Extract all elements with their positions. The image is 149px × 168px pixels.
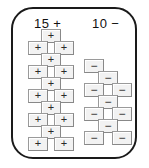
minus-icon: − bbox=[118, 84, 125, 96]
minus-icon: − bbox=[104, 120, 111, 132]
plus-icon: + bbox=[35, 114, 41, 125]
plus-icon: + bbox=[35, 66, 41, 77]
terminal-cell[interactable]: − bbox=[84, 131, 104, 145]
minus-icon: − bbox=[118, 108, 125, 120]
minus-icon: − bbox=[90, 108, 97, 120]
plus-icon: + bbox=[61, 114, 67, 125]
plus-icon: + bbox=[48, 30, 54, 41]
plus-icon: + bbox=[35, 42, 41, 53]
plus-icon: + bbox=[61, 90, 67, 101]
minus-icon: − bbox=[104, 72, 111, 84]
plus-icon: + bbox=[35, 90, 41, 101]
minus-icon: − bbox=[104, 96, 111, 108]
plus-icon: + bbox=[48, 78, 54, 89]
plus-icon: + bbox=[48, 54, 54, 65]
terminal-cell[interactable]: − bbox=[112, 131, 132, 145]
minus-icon: − bbox=[118, 132, 125, 144]
terminal-cell[interactable]: + bbox=[54, 137, 74, 151]
plus-icon: + bbox=[35, 138, 41, 149]
terminal-cell[interactable]: + bbox=[28, 137, 48, 151]
plus-icon: + bbox=[61, 42, 67, 53]
minus-icon: − bbox=[90, 132, 97, 144]
plus-icon: + bbox=[48, 126, 54, 137]
plus-icon: + bbox=[61, 138, 67, 149]
minus-icon: − bbox=[90, 84, 97, 96]
plus-icon: + bbox=[61, 66, 67, 77]
minus-icon: − bbox=[90, 60, 97, 72]
plus-icon: + bbox=[48, 102, 54, 113]
cluster-label-negative: 10 − bbox=[92, 17, 119, 30]
terminal-block-diagram: 15 + 10 − +++++++++++++++−−−−−−−−−− bbox=[0, 0, 149, 168]
